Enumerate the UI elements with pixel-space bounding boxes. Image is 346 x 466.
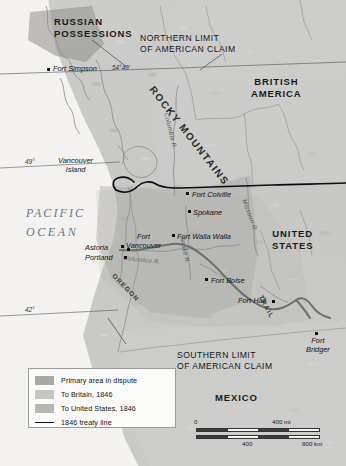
scale-label-miles-end: 400 mi (272, 418, 291, 425)
map-legend: Primary area in dispute To Britain, 1846… (28, 368, 176, 428)
place-label-fort-hall: Fort Hall (238, 296, 266, 305)
place-label-fort-vancouver: Fort Vancouver (126, 232, 161, 250)
ocean-line-1: PACIFIC (26, 206, 85, 220)
scale-label-miles-start: 0 (194, 418, 197, 425)
place-marker-spokane (188, 210, 191, 213)
map-canvas: RUSSIAN POSSESSIONS NORTHERN LIMIT OF AM… (0, 0, 346, 466)
place-line-1: Fort (137, 232, 150, 241)
place-marker-portland (124, 256, 127, 259)
place-label-vancouver-island: Vancouver Island (58, 156, 93, 174)
region-label-russian-possessions: RUSSIAN POSSESSIONS (54, 16, 133, 40)
place-marker-astoria (121, 245, 124, 248)
scale-seg (289, 429, 320, 431)
region-line-2: POSSESSIONS (54, 28, 133, 39)
scale-label-km-end: 800 km (302, 440, 322, 447)
legend-line-treaty (35, 422, 54, 423)
place-marker-fort-bridger (315, 332, 318, 335)
place-marker-fort-boise (205, 278, 208, 281)
legend-item-to-britain[interactable]: To Britain, 1846 (35, 388, 169, 401)
place-line-2: Bridger (306, 345, 330, 354)
claim-limit-northern: NORTHERN LIMIT OF AMERICAN CLAIM (140, 33, 236, 54)
ocean-label-pacific: PACIFIC OCEAN (26, 204, 85, 242)
region-line-1: BRITISH (254, 76, 298, 87)
legend-item-to-united-states[interactable]: To United States, 1846 (35, 402, 169, 415)
place-line-2: Island (66, 165, 86, 174)
scale-bar-miles (196, 428, 320, 432)
region-line-1: UNITED (272, 228, 313, 239)
region-line-2: STATES (272, 240, 313, 251)
legend-swatch-primary-dispute (35, 376, 54, 385)
latitude-line-42 (0, 310, 118, 316)
legend-item-primary-dispute[interactable]: Primary area in dispute (35, 374, 169, 387)
latitude-label-54-40: 54°40' (112, 64, 130, 71)
ocean-line-2: OCEAN (26, 225, 78, 239)
place-marker-fort-colville (186, 192, 189, 195)
place-marker-fort-simpson (47, 68, 50, 71)
claim-limit-line-1: SOUTHERN LIMIT (177, 350, 256, 360)
claim-limit-line-2: OF AMERICAN CLAIM (177, 361, 273, 371)
scale-seg (289, 436, 320, 438)
place-label-fort-walla-walla: Fort Walla Walla (177, 232, 231, 241)
place-label-spokane: Spokane (193, 208, 222, 217)
region-label-mexico: MEXICO (215, 392, 258, 404)
legend-label-treaty-line: 1846 treaty line (61, 418, 112, 427)
scale-seg (258, 436, 289, 438)
place-marker-fort-hall (272, 300, 275, 303)
region-label-british-america: BRITISH AMERICA (251, 76, 302, 100)
legend-label-to-britain: To Britain, 1846 (61, 390, 113, 399)
claim-limit-line-2: OF AMERICAN CLAIM (140, 44, 236, 54)
map-scale-bar: 0 400 mi 400 800 km (196, 418, 328, 448)
region-line-1: MEXICO (215, 392, 258, 403)
scale-seg (258, 429, 289, 431)
legend-label-primary-dispute: Primary area in dispute (61, 376, 137, 385)
legend-swatch-to-britain (35, 390, 54, 399)
place-label-astoria: Astoria (85, 243, 108, 252)
legend-swatch-to-united-states (35, 404, 54, 413)
region-line-1: RUSSIAN (54, 16, 103, 27)
place-line-1: Fort (311, 336, 324, 345)
place-label-portland: Portland (85, 253, 113, 262)
scale-seg (228, 436, 259, 438)
place-line-1: Vancouver (58, 156, 93, 165)
place-label-fort-simpson: Fort Simpson (53, 64, 97, 73)
region-label-united-states: UNITED STATES (272, 228, 313, 252)
latitude-label-42: 42° (25, 306, 35, 313)
place-line-2: Vancouver (126, 241, 161, 250)
claim-limit-southern: SOUTHERN LIMIT OF AMERICAN CLAIM (177, 350, 273, 371)
legend-label-to-united-states: To United States, 1846 (61, 404, 136, 413)
place-label-fort-bridger: Fort Bridger (306, 336, 330, 354)
place-label-fort-colville: Fort Colville (192, 190, 231, 199)
claim-limit-line-1: NORTHERN LIMIT (140, 33, 219, 43)
scale-seg (197, 429, 228, 431)
scale-seg (197, 436, 228, 438)
scale-label-km-mid: 400 (242, 440, 252, 447)
legend-item-treaty-line[interactable]: 1846 treaty line (35, 416, 169, 429)
scale-seg (228, 429, 259, 431)
region-line-2: AMERICA (251, 88, 302, 99)
place-marker-fort-walla-walla (172, 234, 175, 237)
scale-bar-kilometers (196, 435, 320, 439)
place-label-fort-boise: Fort Boise (211, 276, 245, 285)
latitude-label-49: 49° (25, 158, 35, 165)
